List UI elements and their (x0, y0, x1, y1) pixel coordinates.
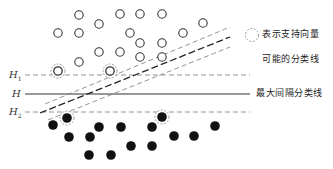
filled-point (64, 132, 74, 142)
filled-point (210, 121, 220, 131)
open-support-vector (106, 67, 114, 75)
open-point (158, 53, 166, 61)
margin-lines (25, 75, 250, 112)
open-point (158, 10, 166, 18)
h2-label-text: H (9, 106, 18, 117)
filled-point (106, 150, 116, 160)
open-point (136, 39, 144, 47)
legend-max-margin-text: 最大间隔分类线 (256, 89, 323, 98)
open-point (158, 39, 166, 47)
filled-point (147, 141, 157, 151)
possible-line-1 (45, 27, 230, 104)
svm-diagram (0, 0, 333, 169)
filled-point (147, 122, 157, 132)
legend-possible-lines-text: 可能的分类线 (262, 55, 319, 64)
filled-support-vector (62, 113, 72, 123)
open-point (95, 48, 103, 56)
filled-point (84, 150, 94, 160)
filled-point (126, 141, 136, 151)
open-point (75, 58, 83, 66)
open-point (116, 10, 124, 18)
filled-point (85, 132, 95, 142)
filled-point (189, 131, 199, 141)
h-label-text: H (12, 88, 21, 99)
possible-classification-lines (40, 27, 230, 120)
h2-subscript: 2 (18, 112, 22, 119)
open-point (116, 48, 124, 56)
open-point (179, 29, 187, 37)
open-point (75, 11, 83, 19)
h-label: H (12, 89, 21, 99)
filled-point (48, 120, 58, 130)
filled-point (169, 131, 179, 141)
legend-support-vector-text: 表示支持向量 (262, 30, 319, 39)
h1-label: H1 (9, 70, 22, 82)
positive-class-points (54, 10, 207, 66)
legend-support-vector-icon (246, 29, 259, 42)
filled-point (94, 122, 104, 132)
negative-class-points (48, 120, 220, 160)
h2-label: H2 (9, 107, 22, 119)
filled-support-vector (157, 112, 167, 122)
open-support-vector (54, 67, 62, 75)
open-point (75, 29, 83, 37)
filled-point (116, 122, 126, 132)
open-point (54, 29, 62, 37)
open-point (95, 20, 103, 28)
open-point (199, 19, 207, 27)
open-point (126, 29, 134, 37)
h1-label-text: H (9, 69, 18, 80)
open-point (136, 53, 144, 61)
open-point (136, 10, 144, 18)
h1-subscript: 1 (18, 75, 22, 82)
